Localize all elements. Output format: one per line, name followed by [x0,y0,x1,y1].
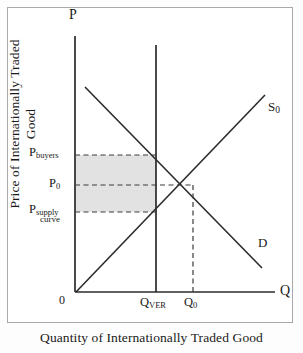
demand-curve-label: D [258,236,267,249]
y-axis-symbol: P [69,8,77,22]
origin-label: 0 [59,294,65,306]
quantity-ver-sub: VER [149,300,166,310]
quantity-zero-base: Q [184,295,193,309]
supply-curve-label: S0 [268,100,280,116]
supply-curve-label-sub: 0 [275,105,280,115]
figure-container: P Q 0 S0 D Pbuyers P0 Psupply curve QVER… [0,0,303,353]
x-axis-title: Quantity of Internationally Traded Good [0,330,303,346]
x-axis-symbol: Q [280,284,290,298]
price-zero-base: P [49,176,56,190]
quantity-zero-sub: 0 [193,300,197,310]
price-supply-sub2: curve [40,215,60,224]
price-zero-sub: 0 [56,181,60,191]
price-buyers-sub: buyers [36,150,59,160]
price-zero-label: P0 [49,177,60,190]
shaded-region-rect [75,155,156,212]
quantity-ver-base: Q [140,295,149,309]
quantity-ver-label: QVER [140,296,166,309]
y-axis-title: Price of Internationally Traded Good [7,39,39,209]
quantity-zero-label: Q0 [184,296,197,309]
